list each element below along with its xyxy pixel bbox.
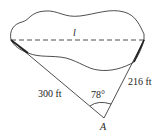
angle-arc (90, 102, 111, 106)
angle-label: 78° (91, 90, 105, 100)
side-300ft (11, 40, 104, 118)
lake-diagram (0, 0, 162, 138)
lake-outline (11, 11, 144, 71)
left-shore-bold (11, 40, 28, 53)
left-side-label: 300 ft (38, 89, 62, 99)
vertex-label: A (100, 122, 106, 132)
right-side-label: 216 ft (128, 77, 152, 87)
right-shore-bold (134, 40, 144, 62)
length-label: l (73, 28, 76, 38)
